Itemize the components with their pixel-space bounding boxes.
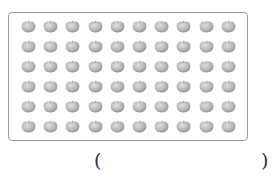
apple-icon xyxy=(132,20,147,33)
apple-icon xyxy=(110,120,125,133)
apple-icon xyxy=(221,100,236,113)
apple-icon xyxy=(154,40,169,53)
answer-close-paren: ) xyxy=(261,151,268,170)
apple-icon xyxy=(199,40,214,53)
apple-icon xyxy=(110,80,125,93)
apple-icon xyxy=(132,100,147,113)
apple-icon xyxy=(21,80,36,93)
apple-icon xyxy=(199,20,214,33)
apple-icon xyxy=(132,120,147,133)
apple-icon xyxy=(65,20,80,33)
apple-icon xyxy=(110,100,125,113)
apple-icon xyxy=(176,40,191,53)
apple-box xyxy=(8,12,248,141)
answer-open-paren: ( xyxy=(94,151,101,170)
apple-icon xyxy=(154,120,169,133)
apple-icon xyxy=(21,100,36,113)
apple-icon xyxy=(43,40,58,53)
apple-icon xyxy=(176,120,191,133)
apple-icon xyxy=(43,100,58,113)
apple-grid xyxy=(20,19,242,139)
apple-icon xyxy=(88,100,103,113)
apple-icon xyxy=(21,40,36,53)
apple-icon xyxy=(176,80,191,93)
apple-icon xyxy=(132,60,147,73)
apple-icon xyxy=(132,40,147,53)
apple-icon xyxy=(43,60,58,73)
apple-icon xyxy=(110,40,125,53)
apple-icon xyxy=(154,100,169,113)
apple-icon xyxy=(88,80,103,93)
apple-icon xyxy=(65,120,80,133)
apple-icon xyxy=(88,120,103,133)
apple-icon xyxy=(43,80,58,93)
apple-icon xyxy=(176,100,191,113)
apple-icon xyxy=(199,80,214,93)
apple-icon xyxy=(221,40,236,53)
apple-icon xyxy=(65,80,80,93)
apple-icon xyxy=(21,20,36,33)
apple-icon xyxy=(88,20,103,33)
apple-icon xyxy=(21,120,36,133)
apple-icon xyxy=(154,80,169,93)
apple-icon xyxy=(43,120,58,133)
apple-icon xyxy=(199,120,214,133)
apple-icon xyxy=(132,80,147,93)
apple-icon xyxy=(65,100,80,113)
answer-blank[interactable] xyxy=(110,153,255,173)
apple-icon xyxy=(65,60,80,73)
apple-icon xyxy=(176,20,191,33)
apple-icon xyxy=(88,40,103,53)
apple-icon xyxy=(21,60,36,73)
apple-icon xyxy=(154,20,169,33)
apple-icon xyxy=(110,20,125,33)
apple-icon xyxy=(154,60,169,73)
apple-icon xyxy=(221,80,236,93)
apple-icon xyxy=(221,120,236,133)
apple-icon xyxy=(176,60,191,73)
apple-icon xyxy=(88,60,103,73)
apple-icon xyxy=(199,100,214,113)
apple-icon xyxy=(65,40,80,53)
apple-icon xyxy=(221,60,236,73)
apple-icon xyxy=(110,60,125,73)
apple-icon xyxy=(221,20,236,33)
apple-icon xyxy=(199,60,214,73)
apple-icon xyxy=(43,20,58,33)
